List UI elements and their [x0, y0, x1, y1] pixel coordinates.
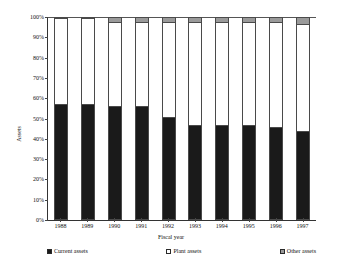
x-axis-tick-mark	[276, 218, 277, 222]
bar-column[interactable]	[262, 17, 289, 220]
bar-segment-plant-assets[interactable]	[270, 22, 282, 127]
x-axis-tick-label: 1993	[189, 222, 201, 230]
x-axis-tick-mark	[141, 218, 142, 222]
x-axis-tick-mark	[222, 218, 223, 222]
bar-segment-current-assets[interactable]	[189, 125, 201, 219]
stacked-bar[interactable]	[81, 17, 95, 220]
y-axis-tick-mark	[45, 220, 48, 221]
bar-segment-current-assets[interactable]	[243, 125, 255, 219]
x-axis-tick-mark	[87, 218, 88, 222]
x-axis-tick-mark	[60, 218, 61, 222]
x-axis-tick-label: 1992	[162, 222, 174, 230]
legend-swatch-icon	[47, 249, 52, 254]
bar-segment-current-assets[interactable]	[55, 104, 67, 219]
x-axis-tick-mark	[195, 218, 196, 222]
y-axis-label: Assets	[16, 126, 22, 142]
bar-column[interactable]	[182, 17, 209, 220]
x-axis-tick-label: 1995	[243, 222, 255, 230]
x-axis-tick-mark	[249, 218, 250, 222]
bar-segment-current-assets[interactable]	[270, 127, 282, 219]
x-axis-tick-mark	[114, 218, 115, 222]
stacked-bar-chart: Assets 0%10%20%30%40%50%60%70%80%90%100%…	[0, 0, 342, 268]
bar-segment-current-assets[interactable]	[109, 106, 121, 219]
bar-column[interactable]	[128, 17, 155, 220]
bar-segment-current-assets[interactable]	[297, 131, 309, 219]
legend-swatch-icon	[280, 249, 285, 254]
bar-segment-plant-assets[interactable]	[82, 18, 94, 104]
legend-label: Other assets	[287, 248, 316, 254]
x-axis-tick-label: 1994	[216, 222, 228, 230]
x-axis-tick-label: 1996	[270, 222, 282, 230]
x-axis-tick-mark	[303, 218, 304, 222]
stacked-bar[interactable]	[108, 17, 122, 220]
stacked-bar[interactable]	[135, 17, 149, 220]
x-axis-tick-label: 1988	[54, 222, 66, 230]
plot-area: 0%10%20%30%40%50%60%70%80%90%100%	[47, 17, 316, 221]
bar-column[interactable]	[236, 17, 263, 220]
bar-segment-plant-assets[interactable]	[55, 18, 67, 104]
legend-swatch-icon	[166, 249, 171, 254]
legend-item[interactable]: Other assets	[280, 248, 316, 254]
stacked-bar[interactable]	[269, 17, 283, 220]
x-axis-tick-label: 1990	[108, 222, 120, 230]
bar-column[interactable]	[102, 17, 129, 220]
legend-label: Current assets	[54, 248, 88, 254]
stacked-bar[interactable]	[188, 17, 202, 220]
stacked-bar[interactable]	[242, 17, 256, 220]
legend-label: Plant assets	[173, 248, 201, 254]
bar-segment-plant-assets[interactable]	[136, 22, 148, 106]
x-axis-tick-mark	[168, 218, 169, 222]
legend-item[interactable]: Plant assets	[166, 248, 201, 254]
bar-column[interactable]	[209, 17, 236, 220]
x-axis-ticks: 1988198919901991199219931994199519961997	[47, 222, 316, 234]
bar-column[interactable]	[75, 17, 102, 220]
x-axis-tick-label: 1997	[297, 222, 309, 230]
bar-segment-current-assets[interactable]	[82, 104, 94, 219]
bar-segment-current-assets[interactable]	[136, 106, 148, 219]
legend-item[interactable]: Current assets	[47, 248, 88, 254]
bar-column[interactable]	[155, 17, 182, 220]
bar-segment-plant-assets[interactable]	[189, 22, 201, 125]
chart-legend: Current assetsPlant assetsOther assets	[47, 248, 316, 254]
bar-column[interactable]	[48, 17, 75, 220]
x-axis-tick-label: 1991	[135, 222, 147, 230]
x-axis-tick-label: 1989	[81, 222, 93, 230]
x-axis-label: Fiscal year	[0, 234, 342, 240]
stacked-bar[interactable]	[162, 17, 176, 220]
bar-segment-plant-assets[interactable]	[243, 22, 255, 125]
bar-segment-current-assets[interactable]	[216, 125, 228, 219]
bar-segment-plant-assets[interactable]	[163, 22, 175, 116]
bar-segment-plant-assets[interactable]	[216, 22, 228, 125]
bar-series-group	[48, 17, 316, 220]
bar-column[interactable]	[289, 17, 316, 220]
stacked-bar[interactable]	[296, 17, 310, 220]
stacked-bar[interactable]	[54, 17, 68, 220]
stacked-bar[interactable]	[215, 17, 229, 220]
bar-segment-current-assets[interactable]	[163, 117, 175, 220]
bar-segment-plant-assets[interactable]	[109, 22, 121, 106]
bar-segment-plant-assets[interactable]	[297, 24, 309, 131]
